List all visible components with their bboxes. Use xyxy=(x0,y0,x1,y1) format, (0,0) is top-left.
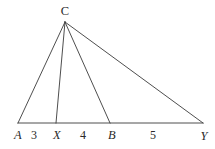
segment-C-A xyxy=(18,22,65,123)
geometry-diagram-canvas xyxy=(0,0,215,149)
geometry-figure: C A X B Y 3 4 5 xyxy=(0,0,215,149)
segment-C-B xyxy=(65,22,110,123)
vertex-label-A: A xyxy=(14,129,22,142)
vertex-label-Y: Y xyxy=(200,130,207,143)
vertex-label-C: C xyxy=(61,5,70,18)
length-label-A-X: 3 xyxy=(31,129,37,141)
vertex-label-X: X xyxy=(53,129,61,142)
segment-C-Y xyxy=(65,22,203,123)
vertex-label-B: B xyxy=(108,129,116,142)
segment-C-X xyxy=(56,22,65,123)
length-label-B-Y: 5 xyxy=(150,129,156,141)
length-label-X-B: 4 xyxy=(80,129,86,141)
